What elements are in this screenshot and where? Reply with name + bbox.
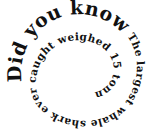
spiral-text-graphic: Did you know? The largest whale shark ev… <box>0 0 149 136</box>
spiral-svg: Did you know? The largest whale shark ev… <box>0 0 149 136</box>
